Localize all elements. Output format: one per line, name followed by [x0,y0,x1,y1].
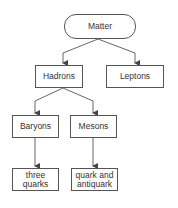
node-quark-antiquark: quark and antiquark [71,168,118,191]
node-matter: Matter [64,14,136,39]
node-leptons-label: Leptons [120,72,150,81]
edge-matter-leptons [98,39,135,63]
node-baryons: Baryons [12,115,59,138]
node-three-quarks: three quarks [12,168,59,191]
edge-matter-hadrons [63,39,98,63]
edge-hadrons-mesons [63,88,93,113]
node-quark-antiquark-label: quark and antiquark [73,171,116,189]
node-mesons-label: Mesons [79,122,109,131]
node-three-quarks-label: three quarks [19,171,52,189]
node-hadrons: Hadrons [35,65,83,88]
node-baryons-label: Baryons [20,122,51,131]
node-mesons: Mesons [70,115,117,138]
node-leptons: Leptons [106,65,164,88]
edge-hadrons-baryons [35,88,63,113]
node-hadrons-label: Hadrons [43,72,75,81]
node-matter-label: Matter [88,22,112,31]
